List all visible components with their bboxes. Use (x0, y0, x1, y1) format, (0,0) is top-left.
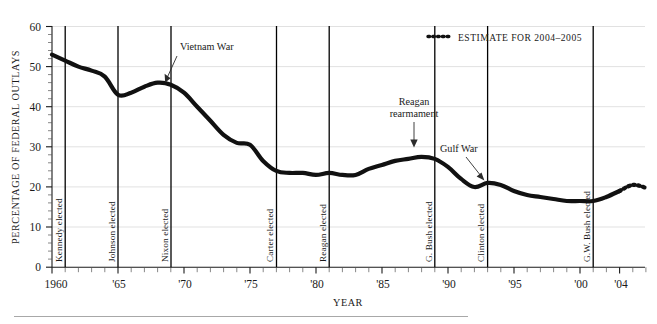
y-tick-label-20: 20 (30, 181, 42, 193)
chart-plot-area: 60 50 40 30 20 10 0 1960 '65 '70 '75 '80… (0, 0, 657, 324)
estimate-line (620, 185, 646, 191)
x-tick-label-1990: '90 (442, 278, 456, 290)
annotation-vietnam-war: Vietnam War (165, 41, 235, 83)
x-tick-label-1960: 1960 (45, 278, 68, 290)
event-label-g-bush: G. Bush elected (424, 201, 434, 262)
x-tick-label-1995: '95 (508, 278, 522, 290)
y-tick-label-60: 60 (30, 21, 42, 33)
x-axis-title: YEAR (333, 297, 363, 308)
y-tick-label-50: 50 (30, 61, 42, 73)
annotation-reagan-rearmament: Reagan rearmament (390, 96, 439, 148)
footer-divider (14, 316, 468, 317)
defense-spending-line-chart: 60 50 40 30 20 10 0 1960 '65 '70 '75 '80… (0, 0, 657, 324)
y-axis-ticks (46, 27, 52, 268)
legend-label-estimate: ESTIMATE FOR 2004–2005 (458, 32, 582, 43)
x-tick-label-1985: '85 (376, 278, 390, 290)
annotation-label-gulf-war: Gulf War (440, 143, 478, 154)
defense-spending-line (52, 55, 620, 202)
y-axis-title: PERCENTAGE OF FEDERAL OUTLAYS (10, 50, 21, 244)
x-tick-label-1970: '70 (178, 278, 192, 290)
event-label-clinton: Clinton elected (476, 204, 486, 262)
x-tick-label-2004: '04 (614, 278, 628, 290)
x-tick-label-2000: '00 (574, 278, 588, 290)
x-tick-label-1965: '65 (112, 278, 126, 290)
annotation-label-vietnam-war: Vietnam War (180, 41, 234, 52)
x-axis-minor-ticks (65, 267, 646, 272)
gridlines (52, 27, 645, 228)
x-tick-label-1980: '80 (310, 278, 324, 290)
event-labels: Kennedy elected Johnson elected Nixon el… (54, 191, 592, 262)
y-tick-label-0: 0 (35, 261, 41, 273)
annotation-label-reagan-line2: rearmament (390, 108, 439, 119)
event-label-johnson: Johnson elected (107, 201, 117, 262)
legend: ESTIMATE FOR 2004–2005 (428, 32, 582, 43)
x-tick-label-1975: '75 (244, 278, 258, 290)
event-label-nixon: Nixon elected (160, 209, 170, 262)
x-axis-ticks (52, 267, 620, 273)
event-label-carter: Carter elected (265, 208, 275, 262)
event-label-kennedy: Kennedy elected (54, 198, 64, 262)
y-tick-label-40: 40 (30, 101, 42, 113)
event-label-reagan: Reagan elected (318, 204, 328, 262)
y-tick-label-10: 10 (30, 221, 42, 233)
y-tick-label-30: 30 (30, 141, 42, 153)
annotation-gulf-war: Gulf War (440, 143, 484, 180)
annotation-label-reagan-line1: Reagan (399, 96, 430, 107)
